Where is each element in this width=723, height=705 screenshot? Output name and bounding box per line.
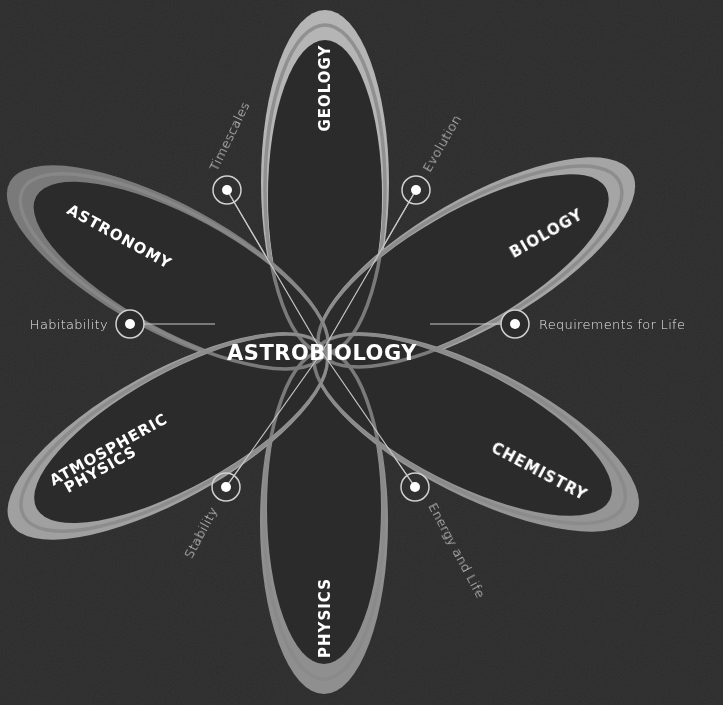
petal-label-physics: PHYSICS (316, 578, 334, 658)
dot-icon (510, 319, 520, 329)
dot-icon (125, 319, 135, 329)
callout-marker-requirements (501, 310, 529, 338)
callout-label-habitability: Habitability (30, 317, 108, 332)
center-label: ASTROBIOLOGY (227, 341, 417, 365)
dot-icon (410, 482, 420, 492)
astrobiology-diagram: Timescales Evolution Habitability Requir… (0, 0, 723, 705)
dot-icon (222, 185, 232, 195)
callout-marker-habitability (116, 310, 144, 338)
dot-icon (411, 185, 421, 195)
callout-label-requirements: Requirements for Life (539, 317, 685, 332)
petal-label-geology: GEOLOGY (316, 44, 334, 131)
dot-icon (221, 482, 231, 492)
